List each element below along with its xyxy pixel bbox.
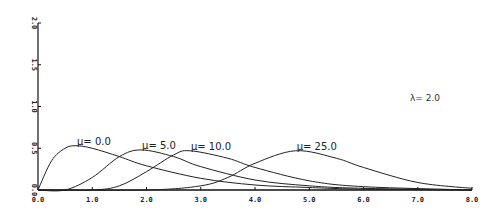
density-curve (38, 151, 472, 191)
density-curve (38, 151, 472, 191)
lambda-annotation: λ= 2.0 (410, 93, 440, 103)
y-tick-label: 1.0 (30, 100, 38, 113)
x-tick-label: 1.0 (86, 196, 99, 204)
curve-label: μ= 5.0 (142, 140, 176, 151)
x-tick-label: 5.0 (303, 196, 316, 204)
curve-label: μ= 25.0 (297, 141, 337, 152)
curve-label: μ= 0.0 (77, 136, 111, 147)
x-tick-label: 6.0 (357, 196, 370, 204)
curve-label: μ= 10.0 (191, 141, 231, 152)
y-tick-label: 2.0 (30, 17, 38, 30)
x-tick-label: 0.0 (32, 196, 45, 204)
chart-plot: 0.01.02.03.04.05.06.07.08.00.00.51.01.52… (0, 0, 503, 210)
y-tick-label: 0.5 (30, 142, 38, 155)
x-tick-label: 8.0 (466, 196, 479, 204)
x-tick-label: 4.0 (249, 196, 262, 204)
x-tick-label: 2.0 (140, 196, 153, 204)
x-tick-label: 7.0 (411, 196, 424, 204)
y-tick-label: 1.5 (30, 58, 38, 71)
x-tick-label: 3.0 (194, 196, 207, 204)
y-tick-label: 0.0 (30, 184, 38, 197)
